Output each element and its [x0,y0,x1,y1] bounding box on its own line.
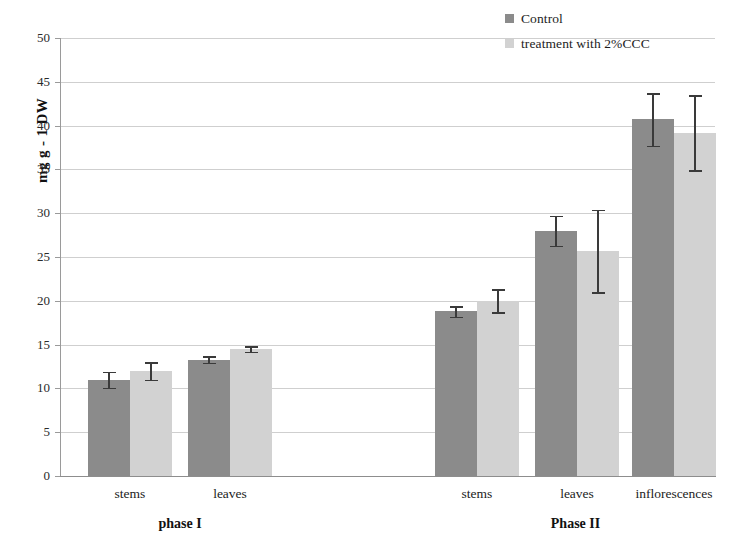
y-tick-label-5: 5 [8,425,50,438]
gridline-40 [60,126,715,127]
gridline-35 [60,169,715,170]
error-bar-control-4 [652,93,654,146]
y-tick-label-20: 20 [8,294,50,307]
error-cap-control-1-low [203,363,216,365]
error-bar-treatment-0 [150,362,152,380]
error-cap-control-4-high [647,93,660,95]
x-axis-line [60,476,716,477]
y-tick-label-15: 15 [8,338,50,351]
gridline-30 [60,213,715,214]
error-cap-control-2-low [450,317,463,319]
error-cap-control-4-low [647,146,660,148]
error-bar-treatment-4 [694,95,696,170]
y-tick-label-50: 50 [8,31,50,44]
bar-control-1 [188,360,230,477]
plot-area: mg g - 1 DW [60,38,715,476]
y-tick-label-40: 40 [8,119,50,132]
error-bar-control-0 [108,372,110,388]
bar-treatment-2 [477,301,519,476]
error-cap-treatment-2-high [492,289,505,291]
y-tick-label-45: 45 [8,75,50,88]
y-axis-line [60,38,61,477]
bar-control-3 [535,231,577,476]
error-cap-treatment-1-low [245,352,258,354]
group-label-0: phase I [100,516,260,531]
y-tick-label-30: 30 [8,206,50,219]
bar-control-2 [435,311,477,476]
error-cap-treatment-4-low [689,170,702,172]
error-cap-control-0-low [103,388,116,390]
gridline-50 [60,38,715,39]
bar-treatment-1 [230,349,272,476]
error-cap-treatment-3-high [592,210,605,212]
y-tick-label-0: 0 [8,469,50,482]
bar-treatment-4 [674,133,716,476]
bar-control-4 [632,119,674,476]
error-cap-treatment-0-high [145,362,158,364]
error-cap-control-1-high [203,356,216,358]
gridline-45 [60,82,715,83]
y-tick-label-10: 10 [8,381,50,394]
error-cap-control-3-low [550,246,563,248]
x-axis-label-1: leaves [160,487,300,501]
error-cap-treatment-2-low [492,312,505,314]
error-cap-control-0-high [103,372,116,374]
bar-treatment-0 [130,371,172,476]
error-cap-treatment-1-high [245,346,258,348]
legend-label-control: Control [521,12,563,26]
error-bar-control-3 [555,216,557,246]
bar-chart: Control treatment with 2%CCC mg g - 1 DW… [0,0,730,542]
error-cap-control-3-high [550,216,563,218]
bar-control-0 [88,380,130,476]
error-bar-treatment-2 [497,289,499,312]
group-label-1: Phase II [496,516,656,531]
x-axis-label-4: inflorescences [604,487,730,501]
legend-item-control: Control [505,6,730,31]
error-bar-treatment-3 [597,210,599,292]
error-cap-treatment-0-low [145,380,158,382]
error-cap-control-2-high [450,306,463,308]
y-tick-label-35: 35 [8,162,50,175]
legend-swatch-control [505,14,514,23]
error-cap-treatment-4-high [689,95,702,97]
error-cap-treatment-3-low [592,292,605,294]
y-tick-label-25: 25 [8,250,50,263]
